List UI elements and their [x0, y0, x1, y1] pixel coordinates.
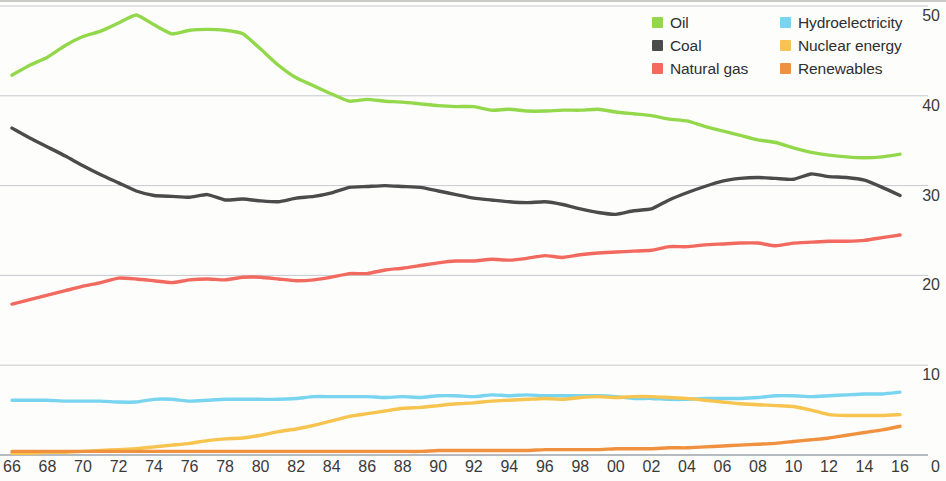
- legend-swatch-renewables: [780, 63, 791, 74]
- x-axis-tick-label-00: 00: [607, 459, 625, 475]
- legend-label-coal: Coal: [670, 38, 701, 54]
- y-axis-tick-label-30: 30: [922, 188, 940, 204]
- legend-item-natural-gas[interactable]: Natural gas: [652, 57, 780, 80]
- series-line-natural-gas: [12, 235, 900, 304]
- x-axis-tick-label-68: 68: [39, 459, 57, 475]
- y-axis-tick-label-50: 50: [922, 8, 940, 24]
- legend-label-nuclear-energy: Nuclear energy: [798, 38, 902, 54]
- x-axis-tick-label-98: 98: [571, 459, 589, 475]
- x-axis-tick-label-02: 02: [642, 459, 660, 475]
- x-axis-tick-label-08: 08: [749, 459, 767, 475]
- x-axis-tick-label-76: 76: [181, 459, 199, 475]
- legend-item-oil[interactable]: Oil: [652, 11, 780, 34]
- x-axis-tick-label-0: 0: [931, 459, 940, 475]
- legend-item-nuclear-energy[interactable]: Nuclear energy: [780, 34, 920, 57]
- legend-label-hydroelectricity: Hydroelectricity: [798, 15, 902, 31]
- legend-item-renewables[interactable]: Renewables: [780, 57, 920, 80]
- x-axis-tick-label-12: 12: [820, 459, 838, 475]
- x-axis-tick-label-06: 06: [713, 459, 731, 475]
- series-lines: [12, 15, 900, 453]
- legend-label-oil: Oil: [670, 15, 689, 31]
- chart-legend: OilHydroelectricityCoalNuclear energyNat…: [652, 11, 922, 80]
- x-axis-tick-label-90: 90: [429, 459, 447, 475]
- x-axis-tick-label-92: 92: [465, 459, 483, 475]
- x-axis-tick-label-66: 66: [3, 459, 21, 475]
- x-axis-tick-label-04: 04: [678, 459, 696, 475]
- legend-swatch-oil: [652, 17, 663, 28]
- x-axis-tick-label-74: 74: [145, 459, 163, 475]
- series-line-hydroelectricity: [12, 392, 900, 402]
- x-axis-tick-label-16: 16: [891, 459, 909, 475]
- x-axis-labels: 6668707274767880828486889092949698000204…: [0, 459, 946, 481]
- x-axis-tick-label-84: 84: [323, 459, 341, 475]
- legend-label-renewables: Renewables: [798, 61, 882, 77]
- legend-swatch-hydroelectricity: [780, 17, 791, 28]
- legend-swatch-coal: [652, 40, 663, 51]
- x-axis-tick-label-88: 88: [394, 459, 412, 475]
- legend-label-natural-gas: Natural gas: [670, 61, 748, 77]
- energy-mix-line-chart: 1020304050 66687072747678808284868890929…: [0, 0, 946, 481]
- x-axis-tick-label-72: 72: [110, 459, 128, 475]
- x-axis-tick-label-78: 78: [216, 459, 234, 475]
- y-axis-tick-label-10: 10: [922, 367, 940, 383]
- x-axis-tick-label-14: 14: [856, 459, 874, 475]
- x-axis-tick-label-70: 70: [74, 459, 92, 475]
- x-axis-tick-label-80: 80: [252, 459, 270, 475]
- y-axis-tick-label-40: 40: [922, 98, 940, 114]
- y-axis-tick-label-20: 20: [922, 277, 940, 293]
- x-axis-tick-label-10: 10: [784, 459, 802, 475]
- x-axis-tick-label-96: 96: [536, 459, 554, 475]
- legend-swatch-nuclear-energy: [780, 40, 791, 51]
- x-axis-tick-label-86: 86: [358, 459, 376, 475]
- x-axis-tick-label-82: 82: [287, 459, 305, 475]
- legend-swatch-natural-gas: [652, 63, 663, 74]
- x-axis-tick-label-94: 94: [500, 459, 518, 475]
- legend-item-hydroelectricity[interactable]: Hydroelectricity: [780, 11, 920, 34]
- legend-item-coal[interactable]: Coal: [652, 34, 780, 57]
